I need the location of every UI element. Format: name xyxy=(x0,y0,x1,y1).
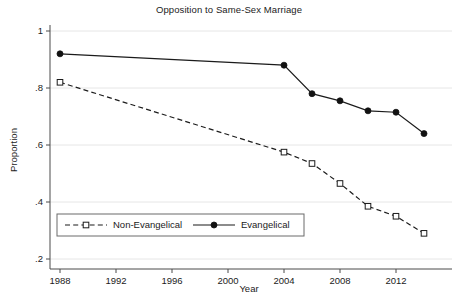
chart-container: Opposition to Same-Sex Marriage .2.4.6.8… xyxy=(0,0,458,305)
legend-marker-non-evangelical xyxy=(83,222,89,228)
x-axis-label: Year xyxy=(239,283,258,294)
series-line-evangelical xyxy=(60,54,424,134)
y-axis-tick-label: .8 xyxy=(35,82,43,93)
legend-marker-evangelical xyxy=(211,222,217,228)
data-point-marker xyxy=(365,203,371,209)
legend-label-evangelical: Evangelical xyxy=(241,219,290,230)
data-point-marker xyxy=(421,231,427,237)
series-line-non-evangelical xyxy=(60,82,424,233)
x-axis-ticks-group: 1988199219962000200420082012 xyxy=(49,269,406,286)
data-point-marker xyxy=(337,98,343,104)
data-point-marker xyxy=(393,213,399,219)
data-point-marker xyxy=(365,108,371,114)
y-axis-tick-label: .4 xyxy=(35,196,43,207)
data-point-marker xyxy=(337,181,343,187)
y-axis-tick-label: .6 xyxy=(35,139,43,150)
chart-plot: .2.4.6.81 1988199219962000200420082012 P… xyxy=(0,0,458,305)
x-axis-tick-label: 2004 xyxy=(273,275,294,286)
series-markers-group xyxy=(57,51,427,236)
data-point-marker xyxy=(309,91,315,97)
data-point-marker xyxy=(393,109,399,115)
x-axis-tick-label: 1996 xyxy=(161,275,182,286)
data-point-marker xyxy=(309,161,315,167)
y-axis-label: Proportion xyxy=(8,128,19,172)
x-axis-tick-label: 2012 xyxy=(385,275,406,286)
y-axis-ticks-group: .2.4.6.81 xyxy=(35,25,50,264)
data-point-marker xyxy=(57,51,63,57)
data-point-marker xyxy=(281,62,287,68)
x-axis-tick-label: 2008 xyxy=(329,275,350,286)
y-axis-tick-label: 1 xyxy=(38,25,43,36)
x-axis-tick-label: 2000 xyxy=(217,275,238,286)
legend-label-non-evangelical: Non-Evangelical xyxy=(113,219,182,230)
data-point-marker xyxy=(57,80,63,86)
data-point-marker xyxy=(421,131,427,137)
data-point-marker xyxy=(281,149,287,155)
x-axis-tick-label: 1992 xyxy=(105,275,126,286)
y-axis-tick-label: .2 xyxy=(35,253,43,264)
x-axis-tick-label: 1988 xyxy=(49,275,70,286)
chart-legend: Non-EvangelicalEvangelical xyxy=(57,214,304,236)
